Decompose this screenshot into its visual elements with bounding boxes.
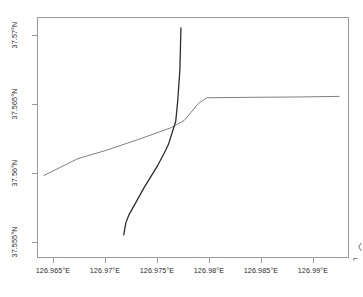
- x-tick-label-4: 126.985°E: [244, 266, 279, 275]
- y-tick-label-0: 37.57°N: [10, 21, 19, 48]
- y-tick-2: [32, 173, 37, 174]
- series-line-route-dark: [124, 28, 181, 235]
- y-tick-0: [32, 35, 37, 36]
- series-layer: [0, 0, 363, 297]
- x-tick-label-3: 126.98°E: [194, 266, 224, 275]
- scatter-map-chart: 126.965°E126.97°E126.975°E126.98°E126.98…: [0, 0, 363, 297]
- cropped-edge-line-2: ⌐: [353, 253, 363, 264]
- x-tick-label-5: 126.99°E: [298, 266, 328, 275]
- cropped-edge-text: 〈 ⌐: [353, 242, 363, 268]
- x-tick-3: [209, 258, 210, 263]
- y-tick-label-1: 37.565°N: [10, 89, 19, 120]
- x-tick-0: [53, 258, 54, 263]
- cropped-edge-line-1: 〈: [353, 242, 363, 253]
- x-tick-label-0: 126.965°E: [36, 266, 71, 275]
- y-tick-label-3: 37.555°N: [10, 227, 19, 258]
- x-tick-2: [157, 258, 158, 263]
- y-tick-3: [32, 242, 37, 243]
- x-tick-5: [313, 258, 314, 263]
- x-tick-label-2: 126.975°E: [140, 266, 175, 275]
- x-tick-1: [105, 258, 106, 263]
- series-line-route-gray: [44, 96, 339, 175]
- y-tick-1: [32, 104, 37, 105]
- x-tick-label-1: 126.97°E: [90, 266, 120, 275]
- y-tick-label-2: 37.56°N: [10, 160, 19, 187]
- x-tick-4: [261, 258, 262, 263]
